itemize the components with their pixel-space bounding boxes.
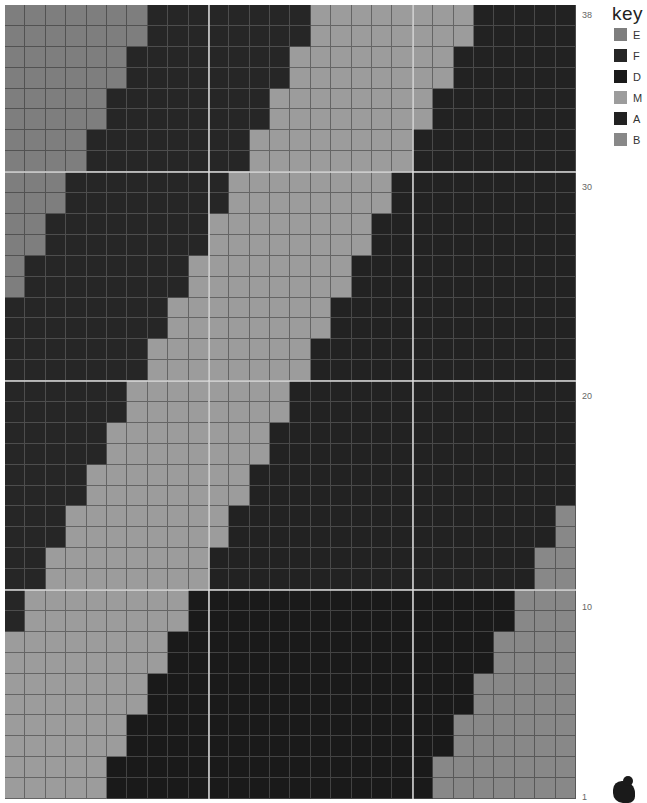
chart-cell — [270, 590, 290, 611]
chart-cell — [87, 653, 107, 674]
chart-cell — [46, 444, 66, 465]
chart-cell — [372, 548, 392, 569]
chart-cell — [556, 506, 576, 527]
chart-cell — [290, 277, 310, 298]
chart-cell — [87, 130, 107, 151]
chart-cell — [433, 318, 453, 339]
chart-cell — [229, 402, 249, 423]
chart-cell — [535, 68, 555, 89]
chart-cell — [331, 360, 351, 381]
chart-cell — [189, 590, 209, 611]
chart-cell — [66, 402, 86, 423]
chart-cell — [189, 778, 209, 799]
chart-cell — [5, 611, 25, 632]
chart-cell — [311, 653, 331, 674]
chart-cell — [5, 298, 25, 319]
chart-cell — [229, 235, 249, 256]
chart-cell — [107, 695, 127, 716]
chart-cell — [5, 193, 25, 214]
key-label: D — [633, 71, 641, 83]
chart-cell — [535, 26, 555, 47]
chart-cell — [331, 444, 351, 465]
chart-cell — [5, 506, 25, 527]
chart-cell — [535, 486, 555, 507]
chart-cell — [413, 109, 433, 130]
chart-cell — [474, 653, 494, 674]
chart-cell — [270, 527, 290, 548]
chart-cell — [107, 653, 127, 674]
key-swatch — [614, 28, 627, 41]
chart-cell — [127, 757, 147, 778]
chart-cell — [372, 778, 392, 799]
chart-cell — [250, 778, 270, 799]
chart-cell — [331, 548, 351, 569]
chart-cell — [127, 339, 147, 360]
chart-cell — [46, 89, 66, 110]
chart-cell — [270, 465, 290, 486]
chart-cell — [331, 130, 351, 151]
chart-cell — [127, 465, 147, 486]
chart-cell — [25, 193, 45, 214]
chart-cell — [127, 423, 147, 444]
chart-cell — [189, 548, 209, 569]
chart-cell — [311, 715, 331, 736]
chart-cell — [474, 360, 494, 381]
chart-cell — [229, 632, 249, 653]
chart-cell — [270, 130, 290, 151]
chart-cell — [46, 778, 66, 799]
chart-cell — [535, 214, 555, 235]
chart-cell — [270, 277, 290, 298]
chart-cell — [250, 172, 270, 193]
chart-cell — [331, 465, 351, 486]
chart-cell — [474, 590, 494, 611]
chart-cell — [229, 5, 249, 26]
chart-cell — [5, 444, 25, 465]
chart-cell — [46, 381, 66, 402]
chart-cell — [311, 318, 331, 339]
chart-cell — [433, 5, 453, 26]
chart-cell — [189, 89, 209, 110]
chart-cell — [250, 486, 270, 507]
chart-cell — [5, 527, 25, 548]
chart-cell — [229, 360, 249, 381]
chart-cell — [556, 256, 576, 277]
chart-cell — [189, 381, 209, 402]
chart-cell — [66, 277, 86, 298]
chart-cell — [107, 402, 127, 423]
chart-cell — [107, 360, 127, 381]
chart-cell — [556, 26, 576, 47]
chart-cell — [127, 653, 147, 674]
chart-cell — [66, 527, 86, 548]
chart-cell — [25, 590, 45, 611]
chart-cell — [229, 256, 249, 277]
chart-cell — [127, 89, 147, 110]
chart-cell — [515, 465, 535, 486]
chart-cell — [433, 68, 453, 89]
chart-cell — [209, 402, 229, 423]
chart-cell — [270, 674, 290, 695]
chart-cell — [127, 736, 147, 757]
chart-cell — [535, 339, 555, 360]
chart-cell — [433, 47, 453, 68]
chart-cell — [535, 674, 555, 695]
chart-cell — [229, 130, 249, 151]
chart-cell — [392, 527, 412, 548]
chart-cell — [392, 715, 412, 736]
chart-cell — [25, 109, 45, 130]
chart-cell — [107, 632, 127, 653]
row-label-1: 1 — [582, 792, 587, 802]
chart-cell — [87, 590, 107, 611]
chart-cell — [474, 256, 494, 277]
heavy-gridline-vertical — [208, 5, 210, 799]
chart-cell — [168, 632, 188, 653]
chart-cell — [515, 548, 535, 569]
chart-cell — [189, 611, 209, 632]
chart-cell — [87, 778, 107, 799]
chart-cell — [25, 486, 45, 507]
chart-cell — [46, 47, 66, 68]
chart-cell — [556, 444, 576, 465]
chart-cell — [556, 778, 576, 799]
chart-cell — [392, 193, 412, 214]
chart-cell — [148, 569, 168, 590]
chart-cell — [454, 632, 474, 653]
